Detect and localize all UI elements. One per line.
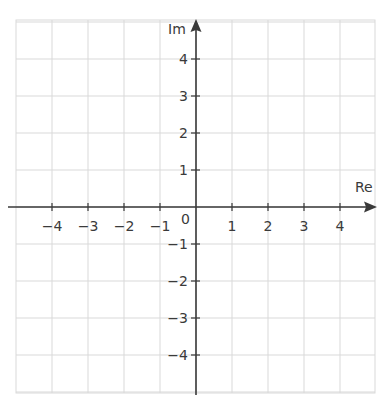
y-tick-label: −1 (167, 236, 188, 252)
origin-label: 0 (181, 211, 190, 227)
axes (8, 19, 377, 395)
x-tick-label: 4 (336, 218, 345, 234)
x-tick-label: −4 (42, 218, 63, 234)
x-tick-label: −2 (114, 218, 135, 234)
y-tick-label: −3 (167, 310, 188, 326)
x-tick-label: 3 (300, 218, 309, 234)
x-tick-label: −1 (150, 218, 171, 234)
argand-diagram: −4−3−2−112344321−1−2−3−4 Re Im 0 (0, 0, 378, 405)
y-tick-label: −4 (167, 347, 188, 363)
y-tick-label: 2 (179, 125, 188, 141)
y-tick-label: 3 (179, 88, 188, 104)
real-axis-label: Re (355, 179, 373, 195)
x-tick-label: 2 (264, 218, 273, 234)
y-tick-label: 4 (179, 51, 188, 67)
x-tick-label: −3 (78, 218, 99, 234)
y-tick-label: 1 (179, 162, 188, 178)
y-tick-label: −2 (167, 273, 188, 289)
x-tick-label: 1 (228, 218, 237, 234)
labels: Re Im 0 (168, 21, 373, 227)
imaginary-axis-label: Im (168, 21, 186, 37)
